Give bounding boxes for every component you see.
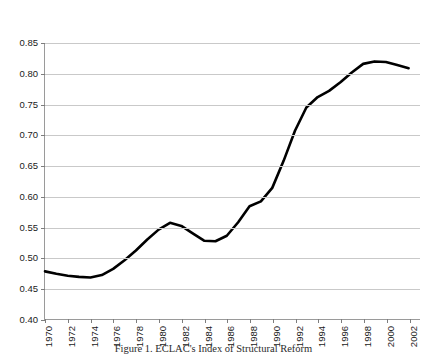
x-axis-tick — [296, 319, 297, 323]
x-axis-tick — [113, 319, 114, 323]
x-axis-tick — [227, 319, 228, 323]
x-axis-tick — [410, 319, 411, 323]
y-gridline — [45, 258, 420, 259]
y-axis-label: 0.55 — [20, 223, 39, 233]
y-gridline — [45, 289, 420, 290]
series-line — [45, 61, 409, 277]
y-axis-tick — [41, 289, 45, 290]
x-axis-tick — [318, 319, 319, 323]
y-gridline — [45, 197, 420, 198]
x-axis-tick — [250, 319, 251, 323]
y-axis-label: 0.85 — [20, 38, 39, 48]
y-axis-tick — [41, 74, 45, 75]
y-axis-tick — [41, 258, 45, 259]
y-axis-label: 0.50 — [20, 254, 39, 264]
y-axis-label: 0.80 — [20, 69, 39, 79]
x-axis-tick — [159, 319, 160, 323]
y-gridline — [45, 105, 420, 106]
x-axis-tick — [91, 319, 92, 323]
y-axis-tick — [41, 135, 45, 136]
y-axis-tick — [41, 228, 45, 229]
x-axis-tick — [205, 319, 206, 323]
y-axis-label: 0.70 — [20, 131, 39, 141]
y-axis-tick — [41, 43, 45, 44]
y-axis-label: 0.75 — [20, 100, 39, 110]
plot-area: 0.400.450.500.550.600.650.700.750.800.85… — [44, 43, 420, 320]
y-gridline — [45, 228, 420, 229]
x-axis-tick — [45, 319, 46, 323]
y-axis-tick — [41, 166, 45, 167]
x-axis-tick — [136, 319, 137, 323]
y-gridline — [45, 74, 420, 75]
x-axis-tick — [273, 319, 274, 323]
series-line-layer — [45, 43, 420, 319]
y-axis-label: 0.65 — [20, 161, 39, 171]
x-axis-tick — [387, 319, 388, 323]
x-axis-tick — [182, 319, 183, 323]
y-axis-tick — [41, 197, 45, 198]
y-gridline — [45, 135, 420, 136]
figure-caption: Figure 1. ECLAC's Index of Structural Re… — [0, 343, 427, 355]
x-axis-tick — [68, 319, 69, 323]
y-axis-label: 0.45 — [20, 284, 39, 294]
x-axis-tick — [364, 319, 365, 323]
y-gridline — [45, 166, 420, 167]
y-axis-label: 0.60 — [20, 192, 39, 202]
y-axis-tick — [41, 105, 45, 106]
y-axis-label: 0.40 — [20, 315, 39, 325]
x-axis-tick — [341, 319, 342, 323]
y-gridline — [45, 43, 420, 44]
